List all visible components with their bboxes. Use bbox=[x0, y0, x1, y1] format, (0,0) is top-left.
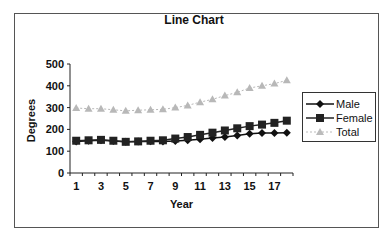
triangle-marker-icon bbox=[306, 126, 334, 138]
x-tick-label: 13 bbox=[219, 180, 231, 192]
y-tick-label: 300 bbox=[46, 102, 64, 114]
diamond-marker-icon bbox=[306, 98, 334, 110]
y-tick-label: 100 bbox=[46, 145, 64, 157]
series-female bbox=[72, 117, 291, 146]
y-tick-label: 400 bbox=[46, 80, 64, 92]
square-marker-icon bbox=[306, 112, 334, 124]
x-tick-label: 1 bbox=[73, 180, 79, 192]
legend: Male Female Total bbox=[302, 92, 376, 142]
x-tick-label: 9 bbox=[172, 180, 178, 192]
x-tick-label: 7 bbox=[147, 180, 153, 192]
y-tick-label: 200 bbox=[46, 123, 64, 135]
x-tick-label: 5 bbox=[123, 180, 129, 192]
series-total bbox=[72, 76, 291, 114]
x-tick-label: 3 bbox=[98, 180, 104, 192]
x-tick-label: 17 bbox=[268, 180, 280, 192]
x-tick-label: 15 bbox=[244, 180, 256, 192]
legend-item-total: Total bbox=[306, 125, 359, 139]
y-axis-label: Degrees bbox=[25, 99, 37, 142]
legend-item-male: Male bbox=[306, 97, 360, 111]
x-axis-label: Year bbox=[170, 198, 194, 210]
y-tick-label: 500 bbox=[46, 58, 64, 70]
y-tick-label: 0 bbox=[58, 167, 64, 179]
legend-item-female: Female bbox=[306, 111, 373, 125]
x-tick-label: 11 bbox=[194, 180, 206, 192]
